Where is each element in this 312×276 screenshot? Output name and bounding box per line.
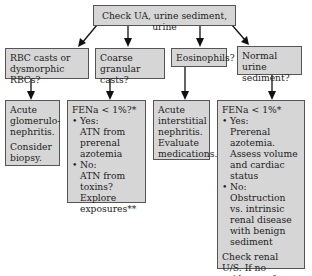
- question-rbc-casts: RBC casts or dysmorphic RBCs?: [5, 48, 89, 79]
- root-box: Check UA, urine sediment, urine: [93, 5, 236, 26]
- question-granular-casts: Coarse granular casts?: [95, 48, 165, 79]
- result-glomerulonephritis: Acute glomerulo-nephritis. Consider biop…: [5, 100, 60, 166]
- question-eosinophils: Eosinophils?: [171, 48, 227, 67]
- question-normal-sediment: Normal urine sediment?: [237, 46, 302, 75]
- result-interstitial-nephritis: Acute interstitial nephritis. Evaluate m…: [153, 100, 210, 160]
- result-fena-normal: FENa < 1%* •Yes: Prerenal azotemia. Asse…: [217, 100, 305, 269]
- result-fena-granular: FENa < 1%?* •Yes: ATN from prerenal azot…: [67, 100, 146, 203]
